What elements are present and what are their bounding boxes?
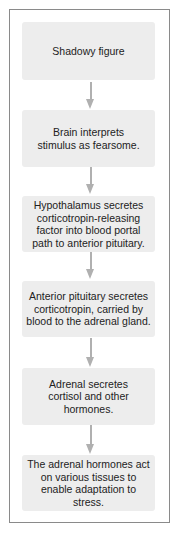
step-brain-interprets: Brain interprets stimulus as fearsome. (22, 110, 155, 167)
step-anterior-pituitary: Anterior pituitary secretes corticotropi… (22, 281, 155, 337)
step-label: Anterior pituitary secretes corticotropi… (25, 290, 152, 328)
down-arrow-icon (86, 252, 95, 279)
step-label: Adrenal secretes cortisol and other horm… (36, 378, 141, 416)
down-arrow-icon (86, 425, 95, 454)
down-arrow-icon (86, 82, 95, 109)
step-adrenal-hormones-act: The adrenal hormones act on various tiss… (22, 455, 155, 511)
step-shadowy-figure: Shadowy figure (22, 22, 155, 80)
step-adrenal-secretes: Adrenal secretes cortisol and other horm… (22, 368, 155, 425)
down-arrow-icon (86, 338, 95, 367)
down-arrow-icon (86, 167, 95, 194)
step-hypothalamus-secretes: Hypothalamus secretes corticotropin-rele… (22, 196, 155, 252)
step-label: Brain interprets stimulus as fearsome. (34, 126, 144, 151)
step-label: Shadowy figure (52, 45, 124, 58)
step-label: The adrenal hormones act on various tiss… (26, 458, 151, 508)
step-label: Hypothalamus secretes corticotropin-rele… (26, 199, 151, 249)
